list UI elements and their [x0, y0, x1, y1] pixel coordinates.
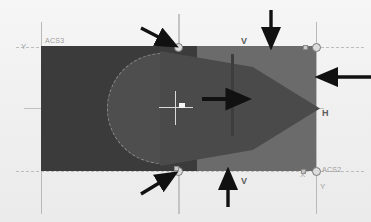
cad-viewport[interactable]: ACS3 Y ACS2 X Y H V V — [0, 0, 371, 222]
annotation-arrow-bottom-up — [0, 0, 371, 222]
